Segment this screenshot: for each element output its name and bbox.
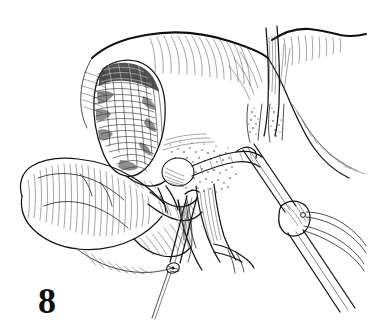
figure-number: 8 (38, 283, 56, 319)
clip-applier-pivot-pin[interactable] (301, 213, 306, 218)
cystic-duct-node (162, 158, 194, 187)
surgical-illustration (0, 0, 387, 333)
figure-container: 8 (0, 0, 387, 333)
